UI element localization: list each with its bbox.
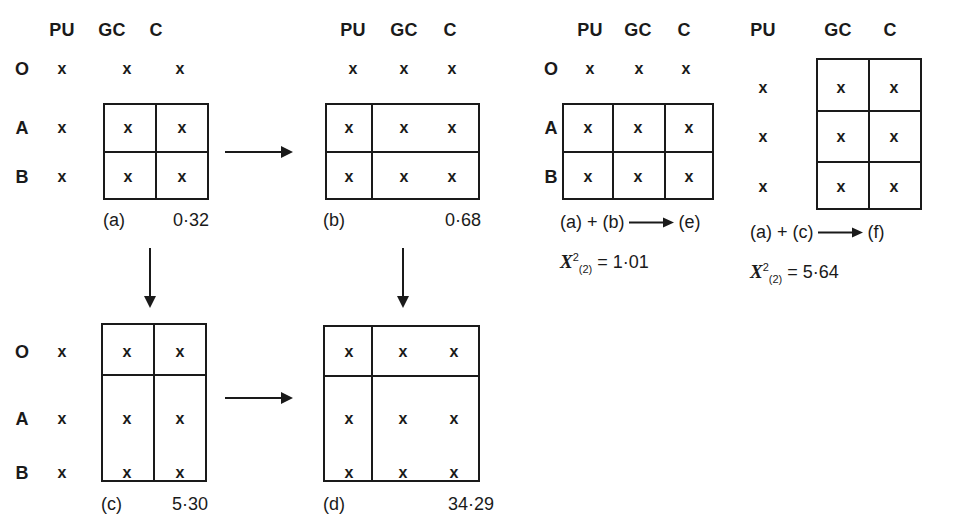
chi-square-subscript: (2)	[769, 273, 782, 285]
cell-mark: x	[176, 344, 185, 360]
cell-mark: x	[685, 120, 694, 136]
panel-e-sources: (a) + (b)	[560, 212, 625, 232]
cell-mark: x	[890, 80, 899, 96]
cell-mark: x	[759, 80, 768, 96]
column-header-pu: PU	[750, 20, 775, 41]
cell-mark: x	[890, 129, 899, 145]
cell-mark: x	[58, 61, 67, 77]
panel-a-caption: (a)	[103, 210, 125, 231]
cell-mark: x	[584, 169, 593, 185]
panel-d-hdivider	[323, 375, 480, 377]
cell-mark: x	[685, 169, 694, 185]
figure-root: PU GC C O A B x x x x x x x x x (a) 0·32…	[0, 0, 962, 530]
cell-mark: x	[399, 411, 408, 427]
arrow-c-to-d	[225, 392, 293, 404]
row-label-b: B	[545, 167, 558, 188]
row-label-b: B	[16, 463, 29, 484]
cell-mark: x	[635, 61, 644, 77]
derivation-arrow-icon	[818, 228, 864, 238]
cell-mark: x	[123, 411, 132, 427]
cell-mark: x	[124, 120, 133, 136]
row-label-o: O	[15, 59, 29, 80]
cell-mark: x	[58, 411, 67, 427]
cell-mark: x	[448, 169, 457, 185]
row-label-o: O	[15, 342, 29, 363]
cell-mark: x	[837, 179, 846, 195]
panel-f-derivation: (a) + (c)(f)	[750, 222, 885, 243]
row-label-o: O	[544, 59, 558, 80]
cell-mark: x	[345, 120, 354, 136]
cell-mark: x	[178, 120, 187, 136]
column-header-gc: GC	[624, 20, 651, 41]
cell-mark: x	[837, 129, 846, 145]
cell-mark: x	[58, 344, 67, 360]
column-header-pu: PU	[49, 20, 74, 41]
cell-mark: x	[448, 61, 457, 77]
row-label-a: A	[16, 118, 29, 139]
column-header-c: C	[149, 20, 162, 41]
cell-mark: x	[58, 120, 67, 136]
cell-mark: x	[584, 120, 593, 136]
arrow-b-to-d	[397, 248, 409, 308]
cell-mark: x	[400, 120, 409, 136]
column-header-gc: GC	[824, 20, 851, 41]
cell-mark: x	[176, 61, 185, 77]
cell-mark: x	[58, 465, 67, 481]
panel-e-result: (e)	[679, 212, 701, 232]
cell-mark: x	[349, 61, 358, 77]
cell-mark: x	[634, 120, 643, 136]
panel-f-hdivider-2	[816, 161, 922, 163]
cell-mark: x	[399, 344, 408, 360]
panel-b-hdivider	[325, 151, 480, 153]
arrow-a-to-b	[225, 146, 293, 158]
panel-f-statistic-value: 5·64	[803, 262, 839, 282]
cell-mark: x	[123, 344, 132, 360]
cell-mark: x	[345, 344, 354, 360]
panel-e-statistic: X2(2) = 1·01	[560, 251, 649, 273]
cell-mark: x	[178, 169, 187, 185]
panel-d-vdivider	[371, 325, 373, 482]
panel-c-value: 5·30	[172, 494, 208, 515]
panel-d-value: 34·29	[448, 494, 494, 515]
panel-f-vdivider	[868, 58, 870, 210]
cell-mark: x	[450, 344, 459, 360]
cell-mark: x	[345, 411, 354, 427]
derivation-arrow-icon	[629, 218, 675, 228]
panel-e-hdivider	[562, 151, 714, 153]
cell-mark: x	[586, 61, 595, 77]
column-header-c: C	[883, 20, 896, 41]
cell-mark: x	[837, 80, 846, 96]
row-label-b: B	[16, 167, 29, 188]
cell-mark: x	[634, 169, 643, 185]
cell-mark: x	[400, 61, 409, 77]
cell-mark: x	[123, 465, 132, 481]
panel-b-value: 0·68	[445, 210, 481, 231]
chi-square-superscript: 2	[763, 261, 769, 273]
cell-mark: x	[448, 120, 457, 136]
panel-e-statistic-value: 1·01	[613, 252, 649, 272]
chi-square-symbol: X	[750, 261, 763, 282]
panel-f-statistic: X2(2) = 5·64	[750, 261, 839, 283]
column-header-gc: GC	[98, 20, 125, 41]
equals-sign: =	[787, 262, 798, 282]
chi-square-subscript: (2)	[579, 263, 592, 275]
cell-mark: x	[682, 61, 691, 77]
cell-mark: x	[176, 465, 185, 481]
panel-a-hdivider	[103, 151, 209, 153]
cell-mark: x	[176, 411, 185, 427]
panel-f-hdivider-1	[816, 110, 922, 112]
cell-mark: x	[450, 465, 459, 481]
cell-mark: x	[58, 169, 67, 185]
cell-mark: x	[123, 61, 132, 77]
cell-mark: x	[399, 465, 408, 481]
cell-mark: x	[759, 129, 768, 145]
cell-mark: x	[450, 411, 459, 427]
column-header-c: C	[443, 20, 456, 41]
panel-a-value: 0·32	[173, 210, 209, 231]
chi-square-superscript: 2	[573, 251, 579, 263]
panel-d-caption: (d)	[323, 494, 345, 515]
cell-mark: x	[759, 179, 768, 195]
column-header-pu: PU	[340, 20, 365, 41]
panel-f-sources: (a) + (c)	[750, 222, 814, 242]
panel-f-result: (f)	[868, 222, 885, 242]
